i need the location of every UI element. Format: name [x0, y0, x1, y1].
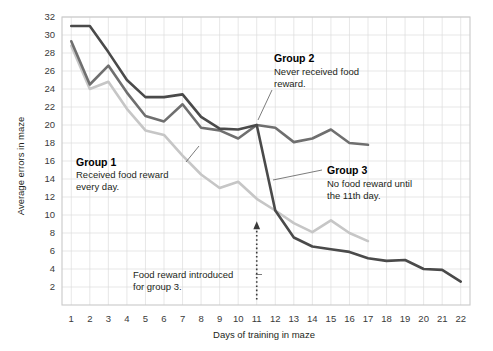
x-axis-title: Days of training in maze: [213, 329, 315, 340]
x-tick-label: 1: [69, 313, 74, 324]
y-tick-label: 8: [50, 227, 55, 238]
x-tick-label: 11: [252, 313, 262, 324]
y-tick-label: 16: [44, 155, 55, 166]
y-tick-label: 12: [44, 191, 55, 202]
x-tick-label: 18: [381, 313, 392, 324]
annotation-leader-lines: [186, 90, 322, 180]
food-reward-arrowhead: [253, 221, 260, 229]
x-tick-label: 8: [198, 313, 203, 324]
annotation-group3-line2: the 11th day.: [327, 190, 381, 201]
series-line-group-3: [71, 26, 460, 282]
annotation-group3-line1: No food reward until: [327, 178, 412, 189]
annotation-group2-line2: reward.: [274, 78, 306, 89]
x-tick-label: 16: [344, 313, 355, 324]
y-tick-label: 26: [44, 65, 55, 76]
y-tick-label: 24: [44, 83, 55, 94]
x-tick-label: 19: [400, 313, 411, 324]
y-tick-label: 14: [44, 173, 55, 184]
x-tick-label: 5: [143, 313, 148, 324]
x-tick-label: 17: [363, 313, 374, 324]
y-tick-label: 20: [44, 119, 55, 130]
data-series: [71, 26, 460, 282]
x-axis-ticks: 12345678910111213141516171819202122: [69, 313, 466, 324]
annotation-group1-line2: every day.: [76, 181, 119, 192]
x-tick-label: 3: [106, 313, 111, 324]
annotation-food-reward-line1: Food reward introduced: [133, 269, 233, 280]
x-tick-label: 4: [124, 313, 129, 324]
x-tick-label: 2: [87, 313, 92, 324]
x-tick-label: 14: [307, 313, 318, 324]
annotation-group1-line1: Received food reward: [76, 169, 168, 180]
y-tick-label: 2: [50, 281, 55, 292]
annotation-group2-line1: Never received food: [274, 66, 359, 77]
y-axis-ticks: 3230282624222018161412108642: [44, 11, 55, 292]
annotation-food-reward-line2: for group 3.: [133, 281, 182, 292]
annotation-group1-title: Group 1: [76, 156, 116, 168]
line-chart: 3230282624222018161412108642 12345678910…: [0, 0, 493, 351]
y-tick-label: 18: [44, 137, 55, 148]
leader-group1: [186, 146, 199, 162]
leader-group3: [273, 170, 322, 180]
y-tick-label: 30: [44, 29, 55, 40]
y-tick-label: 32: [44, 11, 55, 22]
x-tick-label: 10: [233, 313, 244, 324]
x-tick-label: 12: [270, 313, 281, 324]
x-tick-label: 22: [455, 313, 466, 324]
y-tick-label: 10: [44, 209, 55, 220]
x-tick-label: 21: [437, 313, 448, 324]
annotation-group2-title: Group 2: [274, 52, 314, 64]
y-tick-label: 28: [44, 47, 55, 58]
x-tick-label: 6: [161, 313, 166, 324]
y-tick-label: 22: [44, 101, 55, 112]
annotation-group3-title: Group 3: [327, 164, 367, 176]
y-tick-label: 4: [50, 263, 55, 274]
y-axis-title: Average errors in maze: [15, 117, 26, 216]
x-tick-label: 7: [180, 313, 185, 324]
chart-figure: 3230282624222018161412108642 12345678910…: [0, 0, 493, 351]
x-tick-label: 9: [217, 313, 222, 324]
leader-group2: [258, 90, 272, 120]
x-tick-label: 13: [289, 313, 300, 324]
x-tick-label: 15: [326, 313, 337, 324]
x-tick-label: 20: [418, 313, 429, 324]
y-tick-label: 6: [50, 245, 55, 256]
